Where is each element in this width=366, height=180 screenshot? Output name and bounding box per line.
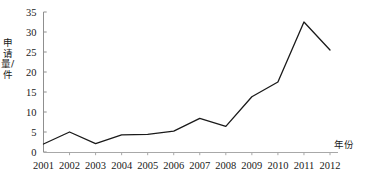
y-axis-tick-label: 5 (31, 127, 36, 138)
y-axis-tick-labels: 05101520253035 (26, 7, 37, 158)
y-axis-tick-label: 30 (26, 27, 37, 38)
y-axis-tick-label: 35 (26, 7, 37, 18)
data-series-line (44, 22, 331, 144)
x-axis-tick-labels: 2001200220032004200520062007200820092010… (33, 160, 341, 171)
x-axis-tick-label: 2007 (189, 160, 210, 171)
x-axis-tick-label: 2009 (241, 160, 262, 171)
x-axis-tick-label: 2008 (215, 160, 236, 171)
y-axis-tick-label: 0 (31, 147, 36, 158)
x-axis-tick-label: 2012 (320, 160, 341, 171)
line-chart: 申请量/件 年份 05101520253035 2001200220032004… (0, 0, 366, 180)
x-axis-tick-label: 2011 (294, 160, 315, 171)
x-axis-tick-label: 2004 (111, 160, 133, 171)
y-axis-tick-label: 25 (26, 47, 37, 58)
x-axis-tick-label: 2001 (33, 160, 54, 171)
x-axis-tick-label: 2006 (163, 160, 184, 171)
y-axis-tick-label: 10 (26, 107, 37, 118)
y-axis-tick-label: 15 (26, 87, 37, 98)
y-axis-tick-label: 20 (26, 67, 37, 78)
x-axis-tick-label: 2003 (85, 160, 106, 171)
x-axis-tick-label: 2002 (59, 160, 80, 171)
chart-plot-area: 05101520253035 2001200220032004200520062… (0, 0, 366, 180)
x-axis-tick-label: 2005 (137, 160, 158, 171)
x-axis-tick-label: 2010 (267, 160, 288, 171)
